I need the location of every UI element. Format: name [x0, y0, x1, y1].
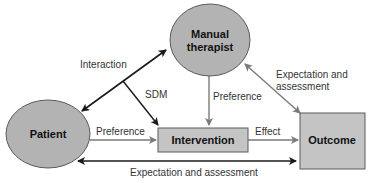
- node-manual-therapist: Manual therapist: [170, 4, 250, 76]
- node-outcome-label: Outcome: [308, 134, 356, 146]
- label-effect: Effect: [255, 126, 281, 137]
- node-patient: Patient: [6, 100, 90, 168]
- node-outcome: Outcome: [300, 113, 365, 169]
- label-sdm: SDM: [145, 89, 167, 100]
- node-patient-label: Patient: [30, 128, 67, 140]
- edge-sdm: [123, 81, 158, 125]
- label-expectation-therapist-line1: Expectation and: [276, 69, 348, 80]
- label-expectation-therapist-line2: assessment: [276, 81, 330, 92]
- node-intervention: Intervention: [158, 128, 248, 152]
- node-intervention-label: Intervention: [172, 134, 235, 146]
- label-preference-patient: Preference: [96, 126, 145, 137]
- label-preference-therapist: Preference: [213, 91, 262, 102]
- label-interaction: Interaction: [80, 59, 127, 70]
- node-manual-therapist-line2: therapist: [187, 41, 234, 53]
- label-expectation-patient: Expectation and assessment: [130, 167, 258, 178]
- diagram-canvas: Manual therapist Patient Intervention Ou…: [0, 0, 376, 183]
- node-manual-therapist-line1: Manual: [191, 28, 229, 40]
